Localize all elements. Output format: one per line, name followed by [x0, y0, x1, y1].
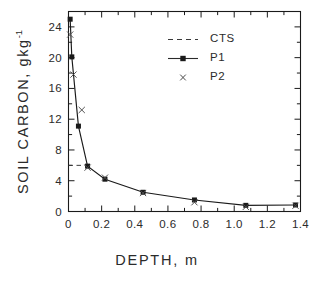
x-tick-label: 0.4 [126, 218, 143, 230]
y-tick-label: 24 [36, 21, 62, 33]
soil-carbon-depth-chart: SOIL CARBON, gkg-1 DEPTH, m 04812162024 … [0, 0, 314, 283]
legend-label-p1: P1 [210, 51, 225, 63]
x-axis-title: DEPTH, m [0, 252, 314, 268]
data-point-p1 [293, 202, 298, 207]
data-point-p1 [76, 124, 81, 129]
x-tick-label: 1.2 [259, 218, 276, 230]
x-tick-label: 0 [65, 218, 72, 230]
dashed-line-icon [166, 30, 200, 49]
x-tick-label: 0.2 [93, 218, 110, 230]
data-point-p1 [141, 190, 146, 195]
legend-item-p2: P2 [166, 68, 246, 87]
y-axis-title-exponent: -1 [13, 30, 24, 38]
plot-area [0, 0, 314, 283]
y-tick-label: 12 [36, 113, 62, 125]
chart-legend: CTS P1 P2 [166, 30, 246, 87]
data-point-p2 [79, 107, 85, 113]
y-tick-label: 8 [36, 144, 62, 156]
x-marker-icon [166, 68, 200, 87]
x-tick-label: 0.8 [192, 218, 209, 230]
y-tick-label: 16 [36, 82, 62, 94]
x-tick-label: 1.0 [226, 218, 243, 230]
x-tick-label: 0.6 [159, 218, 176, 230]
legend-label-p2: P2 [210, 70, 225, 82]
legend-item-p1: P1 [166, 49, 246, 68]
y-tick-label: 20 [36, 52, 62, 64]
data-point-p1 [68, 17, 73, 22]
y-axis-title: SOIL CARBON, gkg-1 [13, 0, 31, 227]
y-axis-title-text: SOIL CARBON, gkg [15, 38, 31, 194]
line-with-square-marker-icon [166, 49, 200, 68]
legend-label-cts: CTS [210, 32, 235, 44]
data-point-p1 [69, 54, 74, 59]
legend-item-cts: CTS [166, 30, 246, 49]
y-tick-label: 4 [36, 175, 62, 187]
x-tick-label: 1.4 [292, 218, 309, 230]
y-tick-label: 0 [36, 206, 62, 218]
